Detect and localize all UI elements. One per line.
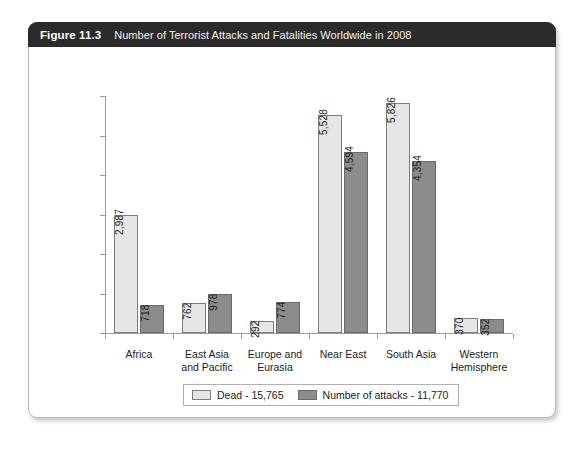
y-axis-tick xyxy=(100,254,105,255)
bar-wrapper: 774 xyxy=(276,96,300,333)
y-axis xyxy=(105,96,106,333)
bar-value-label: 370 xyxy=(454,314,465,338)
y-axis-tick xyxy=(100,175,105,176)
x-axis-tick xyxy=(105,334,106,339)
bar-value-label: 292 xyxy=(250,317,261,341)
bar-dead[interactable] xyxy=(318,115,342,333)
chart-legend: Dead - 15,765 Number of attacks - 11,770 xyxy=(183,384,459,406)
category-label: Near East xyxy=(309,348,377,361)
bar-wrapper: 4,594 xyxy=(344,96,368,333)
legend-swatch-attacks xyxy=(298,390,317,400)
x-axis-tick xyxy=(173,334,174,339)
bar-value-label: 2,987 xyxy=(114,211,125,235)
bar-value-label: 5,528 xyxy=(318,111,329,135)
x-axis-tick xyxy=(377,334,378,339)
bar-value-label: 4,354 xyxy=(412,157,423,181)
x-axis-tick xyxy=(513,334,514,339)
bar-value-label: 5,826 xyxy=(386,99,397,123)
bar-group: 5,5284,594 xyxy=(318,96,368,333)
bar-wrapper: 5,528 xyxy=(318,96,342,333)
bar-wrapper: 2,987 xyxy=(114,96,138,333)
bar-attacks[interactable] xyxy=(412,161,436,333)
category-label: East Asia and Pacific xyxy=(173,348,241,374)
bar-value-label: 4,594 xyxy=(344,148,355,172)
category-label: South Asia xyxy=(377,348,445,361)
bar-wrapper: 292 xyxy=(250,96,274,333)
y-axis-tick xyxy=(100,294,105,295)
bar-wrapper: 5,826 xyxy=(386,96,410,333)
x-axis-tick xyxy=(445,334,446,339)
bar-chart: 2,9877187629782927745,5284,5945,8264,354… xyxy=(105,96,513,333)
figure-title: Number of Terrorist Attacks and Fataliti… xyxy=(114,29,411,41)
legend-swatch-dead xyxy=(192,390,211,400)
chart-plot-area: 2,9877187629782927745,5284,5945,8264,354… xyxy=(29,48,555,417)
legend-item-dead: Dead - 15,765 xyxy=(192,389,284,401)
figure-card: Figure 11.3 Number of Terrorist Attacks … xyxy=(28,22,556,418)
bar-group: 370352 xyxy=(454,96,504,333)
bar-value-label: 978 xyxy=(208,290,219,314)
bar-wrapper: 4,354 xyxy=(412,96,436,333)
bar-value-label: 718 xyxy=(140,301,151,325)
bar-group: 762978 xyxy=(182,96,232,333)
legend-label-attacks: Number of attacks - 11,770 xyxy=(323,389,449,401)
y-axis-tick xyxy=(100,215,105,216)
bar-group: 5,8264,354 xyxy=(386,96,436,333)
figure-number: Figure 11.3 xyxy=(40,29,101,41)
x-axis-tick xyxy=(309,334,310,339)
figure-header: Figure 11.3 Number of Terrorist Attacks … xyxy=(28,22,556,47)
bar-wrapper: 352 xyxy=(480,96,504,333)
bar-group: 2,987718 xyxy=(114,96,164,333)
bar-group: 292774 xyxy=(250,96,300,333)
bar-attacks[interactable] xyxy=(344,152,368,333)
bar-value-label: 774 xyxy=(276,298,287,322)
bar-wrapper: 978 xyxy=(208,96,232,333)
bar-wrapper: 370 xyxy=(454,96,478,333)
legend-item-attacks: Number of attacks - 11,770 xyxy=(298,389,449,401)
category-label: Western Hemisphere xyxy=(445,348,513,374)
x-axis-tick xyxy=(241,334,242,339)
category-label: Africa xyxy=(105,348,173,361)
bar-value-label: 352 xyxy=(480,315,491,339)
bar-value-label: 762 xyxy=(182,299,193,323)
y-axis-tick xyxy=(100,96,105,97)
bar-wrapper: 718 xyxy=(140,96,164,333)
bar-wrapper: 762 xyxy=(182,96,206,333)
legend-label-dead: Dead - 15,765 xyxy=(217,389,284,401)
bar-dead[interactable] xyxy=(386,103,410,333)
category-label: Europe and Eurasia xyxy=(241,348,309,374)
y-axis-tick xyxy=(100,136,105,137)
